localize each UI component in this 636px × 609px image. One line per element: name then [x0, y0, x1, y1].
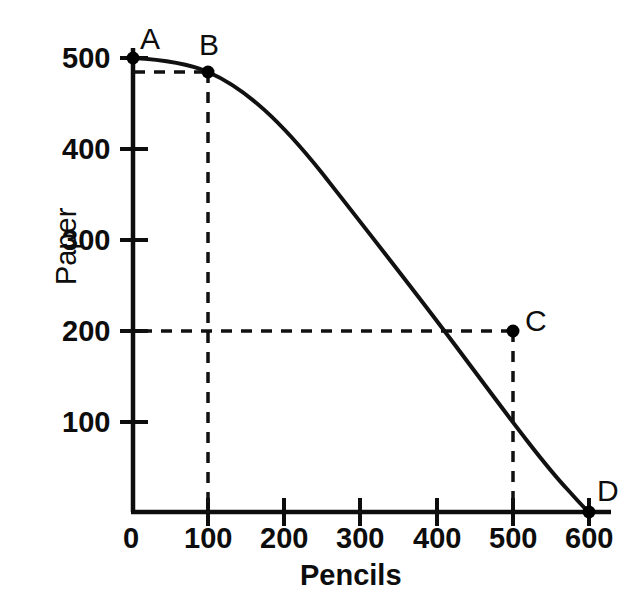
point-label-b: B: [199, 30, 219, 60]
x-tick-label-500: 500: [489, 524, 537, 553]
x-tick-label-600: 600: [565, 524, 613, 553]
ppf-chart: 500 400 300 200 100 0 100 200 300 400 50…: [0, 0, 636, 609]
x-axis-title: Pencils: [300, 561, 402, 590]
point-label-a: A: [140, 24, 160, 54]
y-tick-label-100: 100: [62, 408, 110, 437]
ppf-curve: [133, 58, 589, 512]
x-tick-label-100: 100: [184, 524, 232, 553]
marker-point-d: [583, 506, 596, 519]
marker-point-a: [127, 52, 140, 65]
point-label-c: C: [525, 306, 547, 336]
marker-point-c: [507, 325, 520, 338]
y-axis-title-wrapper: Paper: [52, 208, 81, 285]
x-tick-label-300: 300: [336, 524, 384, 553]
y-tick-label-400: 400: [62, 135, 110, 164]
y-tick-label-200: 200: [62, 317, 110, 346]
marker-point-b: [202, 66, 215, 79]
point-label-d: D: [597, 476, 619, 506]
x-tick-label-0: 0: [123, 524, 139, 553]
data-point-markers: [127, 52, 596, 519]
y-axis-title: Paper: [52, 208, 81, 285]
x-tick-label-400: 400: [413, 524, 461, 553]
y-tick-label-500: 500: [62, 44, 110, 73]
x-tick-label-200: 200: [260, 524, 308, 553]
